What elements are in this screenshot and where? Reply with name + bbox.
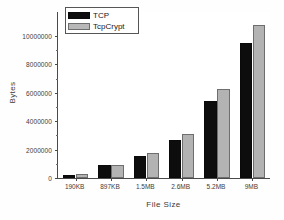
bar-tcp-5.2MB — [204, 101, 217, 178]
y-tick-label: 6000000 — [6, 89, 52, 96]
y-tick-minor — [56, 135, 58, 136]
x-tick-mark — [111, 178, 112, 181]
x-tick-label: 9MB — [227, 183, 275, 190]
x-tick-mark — [252, 178, 253, 181]
bar-tcpcrypt-9MB — [253, 25, 266, 178]
bar-chart-figure: Bytes 0200000040000006000000800000010000… — [0, 0, 284, 220]
legend-label-tcp: TCP — [93, 11, 109, 20]
bar-tcpcrypt-1.5MB — [147, 153, 160, 178]
bar-tcp-2.6MB — [169, 140, 182, 178]
y-tick-minor — [56, 164, 58, 165]
bar-tcp-897KB — [98, 165, 111, 178]
legend-entry-tcpcrypt: TcpCrypt — [68, 21, 136, 32]
y-tick-mark — [55, 121, 58, 122]
x-axis-title: File Size — [57, 200, 270, 209]
legend-swatch-tcpcrypt — [68, 23, 90, 30]
bar-tcpcrypt-190KB — [76, 174, 89, 178]
y-tick-mark — [55, 178, 58, 179]
bar-tcp-190KB — [63, 175, 76, 178]
y-tick-label: 0 — [6, 175, 52, 182]
legend-label-tcpcrypt: TcpCrypt — [93, 22, 125, 31]
bar-tcp-9MB — [240, 43, 253, 178]
x-tick-mark — [146, 178, 147, 181]
bar-tcp-1.5MB — [134, 156, 147, 178]
bar-tcpcrypt-897KB — [111, 165, 124, 178]
y-tick-label: 4000000 — [6, 118, 52, 125]
y-tick-minor — [56, 79, 58, 80]
y-tick-minor — [56, 50, 58, 51]
x-tick-mark — [76, 178, 77, 181]
bar-tcpcrypt-2.6MB — [182, 134, 195, 178]
y-tick-label: 2000000 — [6, 146, 52, 153]
x-tick-mark — [217, 178, 218, 181]
y-tick-mark — [55, 36, 58, 37]
legend-entry-tcp: TCP — [68, 10, 136, 21]
y-tick-mark — [55, 93, 58, 94]
legend-swatch-tcp — [68, 12, 90, 19]
y-tick-label: 10000000 — [6, 33, 52, 40]
plot-area: 0200000040000006000000800000010000000 — [57, 12, 270, 179]
bar-tcpcrypt-5.2MB — [217, 89, 230, 178]
y-tick-minor — [56, 107, 58, 108]
x-tick-mark — [182, 178, 183, 181]
y-tick-mark — [55, 64, 58, 65]
y-tick-label: 8000000 — [6, 61, 52, 68]
chart-legend: TCP TcpCrypt — [65, 7, 139, 34]
y-tick-mark — [55, 150, 58, 151]
